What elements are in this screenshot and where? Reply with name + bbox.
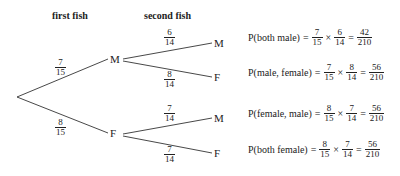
header-second-fish: second fish [144, 10, 191, 21]
prob-f-f: 7 14 [164, 145, 175, 164]
header-first-fish: first fish [52, 10, 88, 21]
prob-m-f: 8 14 [164, 70, 175, 89]
equation-both-female: P(both female) = 815 × 714 = 56210 [248, 140, 380, 159]
prob-f-m: 7 14 [164, 104, 175, 123]
node-m-m: M [214, 38, 224, 49]
equation-male-female: P(male, female) = 715 × 814 = 56210 [248, 63, 384, 82]
prob-m-m: 6 14 [164, 28, 175, 47]
equation-female-male: P(female, male) = 815 × 714 = 56210 [248, 104, 384, 123]
prob-first-f: 8 15 [55, 118, 66, 137]
node-m-f: F [214, 72, 220, 83]
node-f-m: M [214, 113, 224, 124]
node-first-f: F [110, 128, 116, 139]
node-first-m: M [110, 54, 120, 65]
prob-first-m: 7 15 [55, 58, 66, 77]
node-f-f: F [214, 148, 220, 159]
equation-both-male: P(both male) = 715 × 614 = 42210 [248, 28, 372, 47]
